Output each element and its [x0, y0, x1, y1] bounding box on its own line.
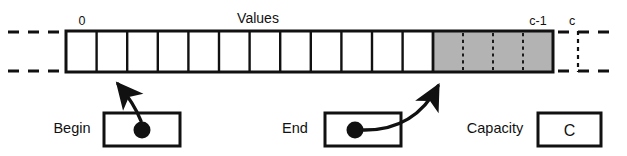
index-label-c: c	[569, 14, 575, 28]
capacity-group[interactable]: Capacity C	[467, 113, 601, 146]
unused-capacity-region	[433, 31, 553, 72]
capacity-label: Capacity	[467, 120, 524, 136]
index-label-zero: 0	[79, 14, 86, 28]
diagram-canvas: 0 Values c-1 c Begin End Capacity C	[0, 0, 627, 156]
capacity-value: C	[564, 122, 576, 139]
begin-pointer-dot-icon	[134, 122, 151, 139]
left-continuation	[8, 32, 60, 71]
end-label: End	[282, 120, 308, 136]
array-title-values: Values	[237, 10, 279, 26]
end-pointer-group[interactable]: End	[282, 86, 438, 146]
right-continuation	[558, 31, 612, 72]
index-label-c-minus-1: c-1	[529, 14, 546, 28]
begin-label: Begin	[53, 120, 90, 136]
array-cell-dividers	[97, 31, 433, 72]
array-layout-diagram: 0 Values c-1 c Begin End Capacity C	[0, 0, 627, 156]
begin-pointer-group[interactable]: Begin	[53, 84, 180, 146]
